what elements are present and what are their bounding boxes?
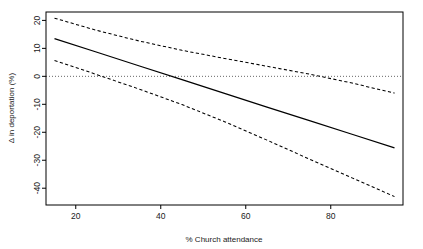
- chart-figure: 20406080 20100-10-20-30-40 % Church atte…: [0, 0, 423, 249]
- x-axis-title: % Church attendance: [186, 235, 263, 244]
- y-tick-label-5: -30: [32, 154, 42, 167]
- x-tick-label-1: 40: [156, 211, 166, 221]
- y-tick-label-3: -10: [32, 98, 42, 111]
- y-tick-label-2: 0: [32, 74, 42, 79]
- x-tick-label-2: 60: [241, 211, 251, 221]
- y-axis-title: Δ in deportation (%): [7, 73, 16, 144]
- figure-background: [0, 0, 423, 249]
- y-tick-label-1: 10: [32, 43, 42, 53]
- y-tick-label-4: -20: [32, 126, 42, 139]
- x-tick-label-3: 80: [326, 211, 336, 221]
- x-tick-label-0: 20: [71, 211, 81, 221]
- y-tick-label-0: 20: [32, 15, 42, 25]
- y-tick-label-6: -40: [32, 182, 42, 195]
- chart-plot-area: 20406080 20100-10-20-30-40 % Church atte…: [0, 0, 423, 249]
